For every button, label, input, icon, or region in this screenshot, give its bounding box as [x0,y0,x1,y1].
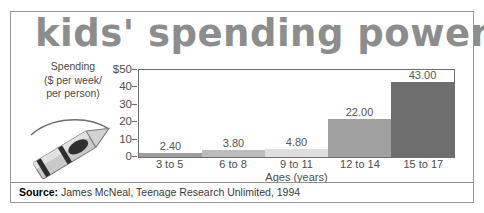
y-tick-label-20: 20 [119,115,132,127]
source-text: James McNeal, Teenage Research Unlimited… [61,186,300,198]
bar-column: 22.00 [328,70,391,157]
chart-figure: kids' spending power Spending ($ per wee… [10,11,474,203]
y-tick-mark-40 [132,86,137,87]
source-note: Source: James McNeal, Teenage Research U… [19,186,300,198]
bar-value-label: 3.80 [202,137,265,149]
y-tick-mark-30 [132,104,137,105]
plot-area: 2.40 3.80 4.80 22.00 43.00 [138,69,455,158]
bar-column: 43.00 [391,70,454,157]
bar [328,119,391,157]
bar [202,150,265,157]
bar [391,82,454,157]
y-tick-mark-10 [132,139,137,140]
y-tick-label-30: 30 [119,98,132,110]
x-tick-label: 15 to 17 [392,158,455,170]
x-tick-label: 12 to 14 [328,158,391,170]
bar-value-label: 43.00 [391,69,454,81]
bar [265,149,328,157]
bar-column: 4.80 [265,70,328,157]
bar-value-label: 22.00 [328,106,391,118]
y-tick-label-10: 10 [119,133,132,145]
bar-series: 2.40 3.80 4.80 22.00 43.00 [139,70,454,157]
y-tick-mark-50 [132,69,137,70]
x-axis: 3 to 5 6 to 8 9 to 11 12 to 14 15 to 17 [138,158,455,170]
footer-divider [11,182,473,183]
y-tick-mark-0 [132,156,137,157]
bar-value-label: 2.40 [139,140,202,152]
y-tick-label-50: $50 [113,63,132,75]
bar-value-label: 4.80 [265,136,328,148]
chart-title: kids' spending power [35,10,475,58]
source-label: Source: [19,186,58,198]
y-tick-label-40: 40 [119,80,132,92]
x-tick-label: 9 to 11 [265,158,328,170]
bar [139,153,202,157]
x-tick-label: 6 to 8 [201,158,264,170]
x-tick-label: 3 to 5 [138,158,201,170]
y-tick-mark-20 [132,121,137,122]
bar-column: 2.40 [139,70,202,157]
bar-column: 3.80 [202,70,265,157]
y-axis: $50 40 30 20 10 0 [93,63,137,162]
